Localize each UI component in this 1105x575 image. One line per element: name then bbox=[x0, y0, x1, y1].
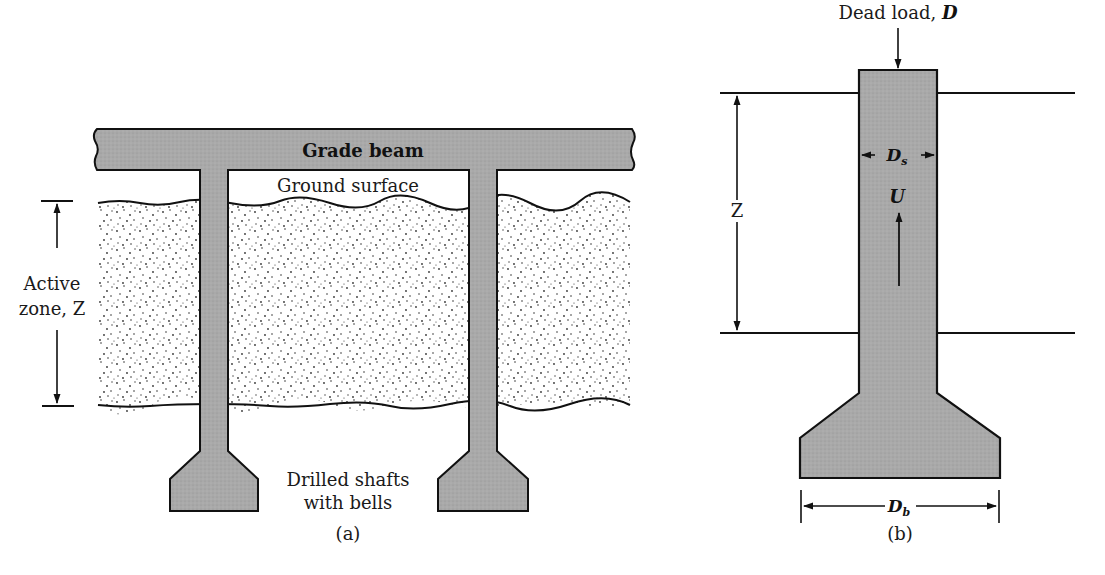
figure-b: Dead load, D Z Ds U Db (b) bbox=[720, 2, 1075, 544]
bell-diameter-label: Db bbox=[887, 496, 911, 519]
active-zone-label-line1: Active bbox=[23, 273, 81, 294]
figure-a: Grade beam Ground surface Active zone, Z… bbox=[19, 129, 635, 544]
grade-beam-label: Grade beam bbox=[302, 140, 424, 161]
ground-surface-label: Ground surface bbox=[277, 175, 419, 196]
drilled-shafts-label-line2: with bells bbox=[304, 492, 393, 513]
foundation-diagram: Grade beam Ground surface Active zone, Z… bbox=[0, 0, 1105, 575]
figure-b-caption: (b) bbox=[887, 523, 913, 544]
drilled-shaft-with-bell bbox=[800, 70, 1000, 478]
dead-load-label: Dead load, D bbox=[839, 2, 958, 23]
zone-depth-label: Z bbox=[731, 200, 744, 221]
active-zone-soil bbox=[98, 192, 630, 415]
figure-a-caption: (a) bbox=[336, 523, 361, 544]
drilled-shafts-label-line1: Drilled shafts bbox=[287, 469, 410, 490]
uplift-force-label: U bbox=[889, 186, 906, 207]
active-zone-label-line2: zone, Z bbox=[19, 298, 86, 319]
